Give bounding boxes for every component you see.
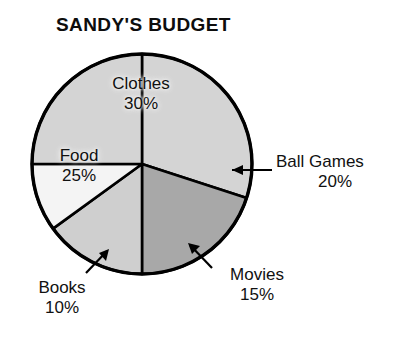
slice-label-movies-pct: 15% xyxy=(207,285,307,305)
slice-label-clothes: Clothes 30% xyxy=(93,74,189,114)
slice-label-clothes-pct: 30% xyxy=(93,94,189,114)
slice-label-ball-games-pct: 20% xyxy=(276,172,394,192)
slice-label-food-name: Food xyxy=(60,146,99,165)
slice-label-ball-games: Ball Games 20% xyxy=(276,152,410,192)
slice-label-movies-name: Movies xyxy=(230,265,284,284)
pie-chart-figure: SANDY'S BUDGET xyxy=(0,0,416,341)
slice-label-food-pct: 25% xyxy=(41,166,117,186)
slice-label-movies: Movies 15% xyxy=(207,265,307,305)
slice-label-books-pct: 10% xyxy=(18,298,106,318)
slice-label-books: Books 10% xyxy=(18,278,106,318)
slice-label-ball-games-name: Ball Games xyxy=(276,152,364,171)
slice-label-clothes-name: Clothes xyxy=(112,74,170,93)
slice-label-food: Food 25% xyxy=(41,146,117,186)
slice-label-books-name: Books xyxy=(38,278,85,297)
